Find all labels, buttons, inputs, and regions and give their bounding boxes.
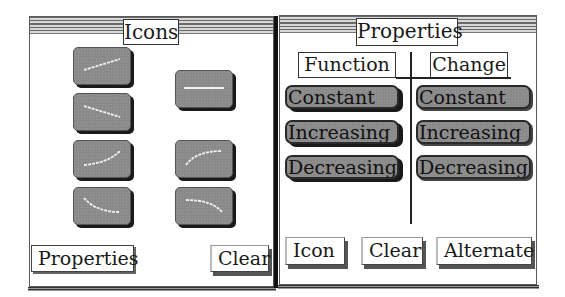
icon-tile-linear-decreasing[interactable] bbox=[73, 93, 131, 131]
function-option-decreasing[interactable]: Decreasing bbox=[285, 155, 399, 179]
clear-icons-button[interactable]: Clear bbox=[210, 245, 269, 272]
increasing-concave-down-icon bbox=[176, 141, 232, 177]
icon-tile-increasing-concave-up[interactable] bbox=[73, 140, 131, 178]
clear-properties-button[interactable]: Clear bbox=[361, 237, 423, 265]
increasing-concave-up-icon bbox=[74, 141, 130, 177]
change-option-increasing[interactable]: Increasing bbox=[416, 120, 531, 144]
properties-window-title: Properties bbox=[356, 18, 458, 46]
icon-tile-decreasing-concave-up[interactable] bbox=[73, 187, 131, 225]
decreasing-concave-down-icon bbox=[176, 188, 232, 224]
icon-button[interactable]: Icon bbox=[285, 237, 345, 265]
function-column-header: Function bbox=[298, 52, 396, 78]
linear-increasing-icon bbox=[74, 48, 130, 84]
icon-tile-linear-increasing[interactable] bbox=[73, 47, 131, 85]
properties-button[interactable]: Properties bbox=[31, 245, 134, 272]
constant-icon bbox=[176, 71, 232, 107]
icons-window: Icons Properties Clear bbox=[29, 16, 274, 287]
window-divider bbox=[274, 16, 278, 288]
icon-tile-increasing-concave-down[interactable] bbox=[175, 140, 233, 178]
header-underline bbox=[396, 77, 511, 79]
properties-window-shadow bbox=[278, 285, 539, 289]
icons-window-shadow bbox=[28, 287, 276, 291]
properties-window: Properties Function Change Constant Incr… bbox=[279, 15, 537, 285]
change-column-header: Change bbox=[430, 52, 508, 78]
icon-tile-constant[interactable] bbox=[175, 70, 233, 108]
change-option-constant[interactable]: Constant bbox=[416, 85, 531, 109]
change-option-decreasing[interactable]: Decreasing bbox=[416, 155, 531, 179]
icons-window-title: Icons bbox=[123, 19, 179, 45]
linear-decreasing-icon bbox=[74, 94, 130, 130]
decreasing-concave-up-icon bbox=[74, 188, 130, 224]
function-option-increasing[interactable]: Increasing bbox=[285, 120, 399, 144]
icon-tile-decreasing-concave-down[interactable] bbox=[175, 187, 233, 225]
function-option-constant[interactable]: Constant bbox=[285, 85, 399, 109]
column-separator bbox=[410, 52, 412, 224]
alternate-button[interactable]: Alternate bbox=[436, 237, 532, 265]
